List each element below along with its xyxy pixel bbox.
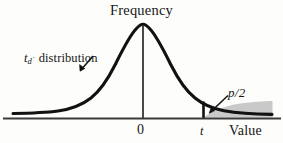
distribution-label: td· distribution xyxy=(24,52,98,66)
tail-area-label: p/2 xyxy=(228,86,246,99)
t-tick-label: t xyxy=(200,125,203,138)
distribution-label-text: distribution xyxy=(39,51,98,65)
x-axis-label: Value xyxy=(229,124,262,138)
chart-title: Frequency xyxy=(0,3,283,18)
t-distribution-figure: Frequency td· distribution p/2 0 t Value xyxy=(0,0,283,143)
distribution-label-prime: · xyxy=(32,52,36,62)
origin-tick-label: 0 xyxy=(137,123,144,137)
